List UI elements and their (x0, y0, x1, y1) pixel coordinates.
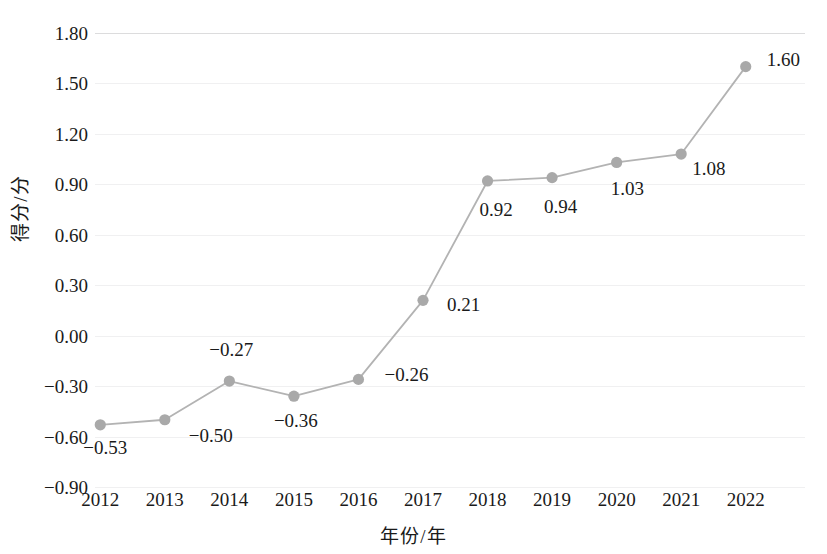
y-axis-tick-label: 0.90 (2, 175, 88, 194)
data-point-label: 1.03 (611, 179, 644, 198)
data-point-marker (482, 175, 493, 186)
data-point-label: 0.94 (544, 197, 577, 216)
data-point-marker (417, 295, 428, 306)
data-point-label: −0.27 (209, 340, 253, 359)
gridline (95, 487, 805, 488)
data-point-label: −0.36 (274, 411, 318, 430)
data-point-label: 0.92 (480, 200, 513, 219)
data-point-label: 0.21 (447, 295, 480, 314)
data-point-marker (288, 391, 299, 402)
x-axis-tick-label: 2022 (706, 490, 786, 509)
data-point-marker (159, 414, 170, 425)
data-point-label: −0.50 (189, 426, 233, 445)
y-axis-tick-label: 0.30 (2, 276, 88, 295)
y-axis-tick-label: 0.00 (2, 327, 88, 346)
data-point-label: −0.26 (384, 365, 428, 384)
data-point-marker (546, 172, 557, 183)
data-point-marker (740, 61, 751, 72)
y-axis-tick-label: −0.30 (2, 377, 88, 396)
data-point-marker (611, 157, 622, 168)
y-axis-tick-label: 0.60 (2, 226, 88, 245)
data-point-marker (353, 374, 364, 385)
y-axis-tick-label: 1.80 (2, 24, 88, 43)
y-axis-tick-label: 1.20 (2, 125, 88, 144)
line-chart: 得分/分 1.801.501.200.900.600.300.00−0.30−0… (0, 0, 827, 554)
plot-area (95, 33, 805, 487)
series-line (95, 33, 805, 487)
data-point-marker (95, 419, 106, 430)
data-point-label: 1.60 (767, 50, 800, 69)
data-point-label: 1.08 (692, 159, 725, 178)
y-axis-tick-labels: 1.801.501.200.900.600.300.00−0.30−0.60−0… (0, 0, 88, 554)
data-point-marker (676, 148, 687, 159)
x-axis-title: 年份/年 (0, 521, 827, 548)
y-axis-tick-label: 1.50 (2, 74, 88, 93)
y-axis-tick-label: −0.60 (2, 428, 88, 447)
data-point-marker (224, 375, 235, 386)
data-point-label: −0.53 (83, 438, 127, 457)
